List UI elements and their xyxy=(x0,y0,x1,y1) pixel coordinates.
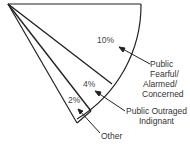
segment-value-outraged: 4% xyxy=(83,79,96,89)
label-outraged-line2: Indignant xyxy=(139,116,175,126)
bottom-edge xyxy=(8,4,77,123)
segment-dividers xyxy=(8,4,112,111)
segment-value-fearful: 10% xyxy=(97,35,114,45)
label-fearful-line1: Public xyxy=(150,59,174,69)
label-other: Other xyxy=(101,131,122,141)
label-fearful-line2: Fearful/ xyxy=(150,69,179,79)
segment-value-other: 2% xyxy=(68,95,81,105)
label-fearful-line4: Concerned xyxy=(142,89,184,99)
label-outraged-line1: Public Outraged xyxy=(126,106,187,116)
arrow-head-fearful xyxy=(119,47,125,52)
arrow-head-outraged xyxy=(95,91,101,96)
wedge-outline xyxy=(8,4,141,123)
wedge-diagram: 10% 4% 2% Public Fearful/ Alarmed/ Conce… xyxy=(0,0,190,148)
label-fearful-line3: Alarmed/ xyxy=(143,79,178,89)
outer-arc xyxy=(77,4,141,119)
